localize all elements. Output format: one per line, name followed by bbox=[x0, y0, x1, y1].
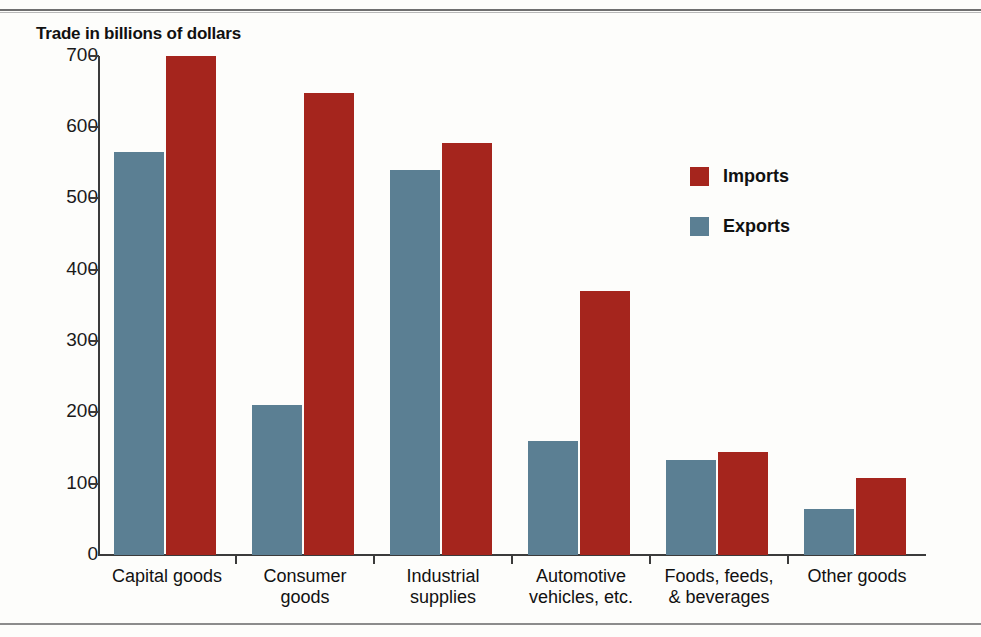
y-tick-mark bbox=[90, 269, 99, 271]
legend-swatch-imports bbox=[690, 167, 709, 186]
y-tick-300: 300 bbox=[26, 340, 98, 342]
legend-label-exports: Exports bbox=[723, 216, 790, 237]
y-tick-mark bbox=[90, 126, 99, 128]
y-tick-mark bbox=[90, 340, 99, 342]
bar-imports-5[interactable] bbox=[856, 478, 906, 555]
legend-swatch-exports bbox=[690, 217, 709, 236]
bar-imports-3[interactable] bbox=[580, 291, 630, 555]
legend-label-imports: Imports bbox=[723, 166, 789, 187]
x-tick-mark bbox=[787, 556, 789, 564]
bar-exports-0[interactable] bbox=[114, 152, 164, 555]
legend-item-exports[interactable]: Exports bbox=[690, 215, 790, 237]
bar-imports-1[interactable] bbox=[304, 93, 354, 555]
x-axis-label-2: Industrial supplies bbox=[364, 566, 522, 608]
bar-exports-2[interactable] bbox=[390, 170, 440, 555]
x-tick-mark bbox=[373, 556, 375, 564]
y-tick-200: 200 bbox=[26, 411, 98, 413]
x-axis-label-0: Capital goods bbox=[88, 566, 246, 587]
y-tick-0: 0 bbox=[26, 554, 98, 556]
y-tick-100: 100 bbox=[26, 483, 98, 485]
bar-imports-4[interactable] bbox=[718, 452, 768, 555]
y-tick-700: 700 bbox=[26, 55, 98, 57]
legend: Imports Exports bbox=[690, 165, 790, 265]
bar-exports-5[interactable] bbox=[804, 509, 854, 555]
plot-area: 0100200300400500600700 Capital goodsCons… bbox=[0, 0, 981, 637]
chart-figure: Trade in billions of dollars 01002003004… bbox=[0, 0, 981, 637]
y-axis-line bbox=[98, 56, 100, 556]
x-tick-mark bbox=[511, 556, 513, 564]
y-tick-mark bbox=[90, 411, 99, 413]
bar-exports-1[interactable] bbox=[252, 405, 302, 555]
x-axis-label-5: Other goods bbox=[778, 566, 936, 587]
y-tick-mark bbox=[90, 197, 99, 199]
x-tick-mark bbox=[649, 556, 651, 564]
bar-imports-0[interactable] bbox=[166, 56, 216, 555]
y-tick-600: 600 bbox=[26, 126, 98, 128]
legend-item-imports[interactable]: Imports bbox=[690, 165, 790, 187]
bar-imports-2[interactable] bbox=[442, 143, 492, 555]
bar-exports-4[interactable] bbox=[666, 460, 716, 555]
x-tick-mark bbox=[235, 556, 237, 564]
y-tick-mark bbox=[90, 55, 99, 57]
x-axis-label-1: Consumer goods bbox=[226, 566, 384, 608]
x-axis-label-3: Automotive vehicles, etc. bbox=[502, 566, 660, 608]
y-tick-mark bbox=[90, 483, 99, 485]
y-tick-label: 0 bbox=[54, 544, 98, 563]
y-tick-500: 500 bbox=[26, 197, 98, 199]
y-tick-400: 400 bbox=[26, 269, 98, 271]
bar-exports-3[interactable] bbox=[528, 441, 578, 555]
x-axis-label-4: Foods, feeds, & beverages bbox=[640, 566, 798, 608]
